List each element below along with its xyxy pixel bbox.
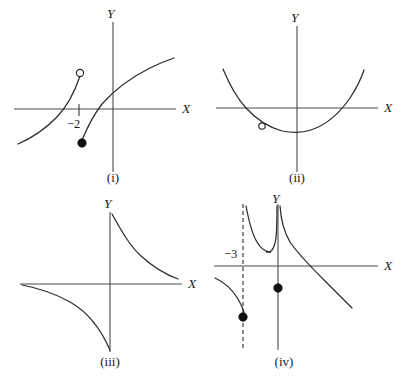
y-axis-label: Y	[104, 196, 113, 211]
open-circle-marker	[259, 123, 265, 129]
filled-dot-on-asymptote	[239, 313, 247, 321]
y-axis-label: Y	[272, 194, 281, 206]
curve-right-branch	[82, 58, 174, 140]
curve-far-left-branch	[215, 278, 245, 316]
figure-grid: X Y −2 (i) X Y (ii) X Y	[0, 0, 412, 388]
filled-dot-marker	[78, 139, 86, 147]
y-axis-label: Y	[107, 6, 116, 21]
panel-iv-plot: X Y −3 (iv)	[206, 194, 412, 388]
tick-label-minus-2: −2	[67, 117, 80, 131]
panel-caption-iii: (iii)	[100, 354, 120, 369]
filled-dot-on-y-axis	[274, 284, 282, 292]
panel-caption-iv: (iv)	[275, 354, 294, 369]
curve-parabola	[223, 69, 364, 132]
x-axis-label: X	[383, 100, 393, 115]
panel-iii-plot: X Y (iii)	[0, 194, 206, 388]
curve-branch-quadrant-one	[112, 214, 178, 279]
panel-i-plot: X Y −2 (i)	[0, 0, 206, 194]
curve-left-branch	[18, 76, 80, 144]
x-axis-label: X	[187, 276, 197, 291]
curve-right-branch	[280, 206, 352, 308]
panel-caption-ii: (ii)	[289, 170, 305, 185]
curve-middle-u-branch	[246, 206, 277, 252]
x-axis-label: X	[383, 258, 393, 273]
panel-i: X Y −2 (i)	[0, 0, 206, 194]
panel-caption-i: (i)	[107, 170, 119, 185]
panel-iii: X Y (iii)	[0, 194, 206, 388]
x-axis-label: X	[181, 101, 191, 116]
panel-ii: X Y (ii)	[206, 0, 412, 194]
open-circle-marker	[76, 69, 83, 76]
y-axis-label: Y	[291, 10, 300, 25]
panel-iv: X Y −3 (iv)	[206, 194, 412, 388]
tick-label-minus-3: −3	[224, 247, 237, 261]
curve-branch-quadrant-three	[22, 285, 110, 350]
panel-ii-plot: X Y (ii)	[206, 0, 412, 194]
